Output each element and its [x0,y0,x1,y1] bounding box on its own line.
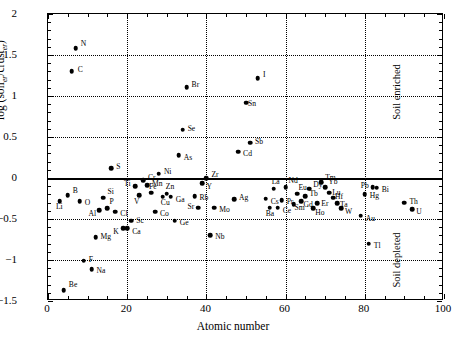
data-point [295,191,300,196]
data-point [69,69,74,74]
data-point-label: Co [160,210,169,218]
data-point-label: O [85,199,90,207]
axis-tick [325,296,326,299]
data-point [275,205,280,210]
plot-area: BeLiBCNOFNaMgAlSiPSClKCaScTiVCrMnFeCoNiC… [47,13,443,300]
axis-tick [345,296,346,299]
data-point [196,205,201,210]
data-point-label: Sb [255,138,263,146]
data-point-label: Cs [271,198,279,206]
axis-tick [48,47,51,48]
data-point-label: Ni [164,168,172,176]
axis-tick [48,268,51,269]
axis-tick [444,14,445,19]
axis-tick [48,80,51,81]
axis-tick [48,235,51,236]
axis-tick [48,219,51,220]
axis-tick [48,227,51,228]
axis-tick [439,153,442,154]
gridline-vertical [127,14,128,299]
data-point-label: Bi [382,186,389,194]
axis-tick [48,14,49,19]
axis-tick [439,203,442,204]
axis-tick [439,88,442,89]
axis-tick [107,296,108,299]
data-point-label: F [89,256,93,264]
data-point-label: K [113,228,118,236]
axis-tick [365,14,366,19]
axis-tick [48,39,51,40]
x-tick-label: 100 [423,303,463,314]
y-tick-label: −1 [0,254,17,265]
data-point [101,195,106,200]
axis-tick [48,162,51,163]
axis-tick [437,55,442,56]
axis-tick [439,260,442,261]
axis-tick [48,153,51,154]
data-point-label: Rb [200,194,209,202]
x-tick-label: 40 [185,303,225,314]
axis-tick [48,294,49,299]
axis-tick [439,80,442,81]
axis-tick [439,112,442,113]
axis-tick [48,88,51,89]
axis-tick [385,296,386,299]
axis-tick [286,14,287,19]
data-point [81,259,86,264]
data-point-label: Pb [361,182,369,190]
x-tick-label: 0 [27,303,67,314]
axis-tick [48,112,51,113]
data-point-label: Nd [289,177,298,185]
data-point [363,192,368,197]
axis-tick [48,137,53,138]
data-point-label: Mo [219,206,230,214]
data-point-label: Tb [309,190,317,198]
data-point-label: Li [56,203,63,211]
axis-tick [68,296,69,299]
data-point [125,226,130,231]
axis-tick [305,296,306,299]
data-point [208,233,213,238]
gridline-vertical [365,14,366,299]
data-point-label: Y [206,183,211,191]
data-point [323,185,328,190]
data-point [256,76,261,81]
axis-tick [439,39,442,40]
data-point [93,235,98,240]
y-tick-label: −1.5 [0,295,17,306]
axis-tick [439,71,442,72]
data-point-label: P [109,198,113,206]
data-point-label: Hf [335,193,343,201]
y-axis-title: log (soiler/cruster) [0,0,9,120]
data-point [113,209,118,214]
axis-tick [439,235,442,236]
data-point [192,194,197,199]
data-point [402,200,407,205]
axis-tick [147,296,148,299]
gridline-horizontal [48,55,442,56]
data-point [73,46,78,51]
data-point [172,218,177,223]
axis-tick [246,296,247,299]
data-point [180,127,185,132]
data-point-label: Nb [215,233,224,241]
data-point [319,180,324,185]
data-point [200,181,205,186]
data-point-label: V [134,198,139,206]
data-point-label: Ga [176,196,185,204]
axis-tick [266,296,267,299]
axis-tick [439,30,442,31]
data-point-label: Ba [266,210,274,218]
x-tick-label: 60 [265,303,305,314]
axis-tick [226,296,227,299]
axis-tick [187,14,188,17]
data-point [327,190,332,195]
y-tick-label: 0.5 [0,131,17,142]
data-point [97,208,102,213]
axis-tick [48,63,51,64]
data-point [315,201,320,206]
data-point [248,140,253,145]
axis-tick [439,219,442,220]
data-point-label: Sr [187,203,194,211]
data-point-label: Sc [136,217,144,225]
